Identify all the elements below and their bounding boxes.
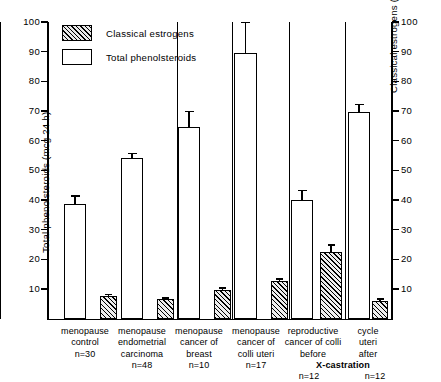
x-category-label-5: cycleuteriafter	[320, 326, 416, 360]
y-tick-left-30	[41, 229, 48, 230]
bar-classical-estrogens-3	[271, 281, 288, 319]
x-castration-text: X-castration	[316, 360, 370, 370]
y-tick-right-20	[392, 259, 399, 260]
x-category-line: uteri	[320, 337, 416, 348]
error-bar-cap-0	[71, 195, 80, 196]
y-ticklabel-right-10: 10	[401, 284, 427, 294]
y-ticklabel-right-40: 40	[401, 195, 427, 205]
y-ticklabel-right-30: 30	[401, 225, 427, 235]
y-ticklabel-left-70: 70	[14, 106, 40, 116]
sample-size-label-3: n=17	[226, 360, 286, 371]
y-ticklabel-right-50: 50	[401, 165, 427, 175]
y-tick-right-10	[392, 288, 399, 289]
y-ticklabel-left-30: 30	[14, 225, 40, 235]
y-tick-left-60	[41, 140, 48, 141]
bar-classical-estrogens-2	[214, 290, 231, 319]
y-ticklabel-left-40: 40	[14, 195, 40, 205]
y-tick-left-20	[41, 259, 48, 260]
error-bar-cap-2	[219, 287, 226, 288]
sample-size-label-1: n=48	[112, 360, 172, 371]
bar-total-phenolsteroids-0	[64, 204, 86, 319]
y-tick-left-50	[41, 170, 48, 171]
y-tick-right-100	[392, 21, 399, 22]
bar-total-phenolsteroids-1	[121, 158, 143, 319]
y-tick-left-70	[41, 110, 48, 111]
x-category-line: cycle	[320, 326, 416, 337]
y-ticklabel-right-70: 70	[401, 106, 427, 116]
y-ticklabel-right-60: 60	[401, 136, 427, 146]
y-ticklabel-right-20: 20	[401, 254, 427, 264]
error-bar-cap-2	[185, 111, 194, 112]
y-ticklabel-left-90: 90	[14, 47, 40, 57]
y-axis-left-title: Total phenolsteroids (mcg 24 h)	[40, 112, 51, 253]
y-tick-right-30	[392, 229, 399, 230]
error-bar-cap-3	[276, 278, 283, 279]
error-bar-cap-1	[162, 297, 169, 298]
y-ticklabel-left-100: 100	[14, 17, 40, 27]
y-axis-right-title: Classical estrogens (mcg 24 h)	[388, 0, 399, 93]
bar-classical-estrogens-1	[157, 299, 174, 319]
y-tick-right-60	[392, 140, 399, 141]
bar-total-phenolsteroids-4	[291, 200, 313, 319]
y-ticklabel-right-90: 90	[401, 47, 427, 57]
sample-size-label-5: n=12	[345, 371, 405, 382]
y-ticklabel-left-10: 10	[14, 284, 40, 294]
error-bar-cap-4	[298, 190, 307, 191]
bar-total-phenolsteroids-5	[348, 112, 370, 319]
error-bar-cap-1	[128, 153, 137, 154]
error-bar-cap-5	[355, 104, 364, 105]
y-tick-right-80	[392, 81, 399, 82]
y-tick-right-50	[392, 170, 399, 171]
y-ticklabel-right-100: 100	[401, 17, 427, 27]
bar-total-phenolsteroids-3	[234, 53, 257, 319]
legend-label: Classical estrogens	[106, 28, 194, 39]
group-separator-4	[345, 22, 346, 319]
open-box-icon	[62, 49, 92, 65]
y-tick-right-90	[392, 51, 399, 52]
error-bar-line-3	[245, 22, 246, 53]
y-tick-left-80	[41, 81, 48, 82]
sample-size-label-0: n=30	[55, 349, 115, 360]
error-bar-cap-5	[377, 298, 384, 299]
bar-classical-estrogens-5	[372, 301, 388, 319]
group-separator-0	[0, 22, 1, 319]
y-ticklabel-left-20: 20	[14, 254, 40, 264]
bar-classical-estrogens-4	[320, 252, 342, 319]
y-tick-left-40	[41, 199, 48, 200]
y-ticklabel-left-80: 80	[14, 76, 40, 86]
error-bar-cap-0	[105, 294, 112, 295]
hatched-box-icon	[62, 25, 92, 41]
error-bar-line-2	[188, 111, 189, 127]
y-ticklabel-left-50: 50	[14, 165, 40, 175]
error-bar-line-5	[358, 104, 359, 113]
y-ticklabel-right-80: 80	[401, 76, 427, 86]
sample-size-label-4: n=12	[279, 371, 339, 382]
x-castration-annotation: X-castration	[298, 360, 388, 370]
y-tick-left-10	[41, 288, 48, 289]
error-bar-line-0	[74, 195, 75, 204]
y-tick-right-40	[392, 199, 399, 200]
y-ticklabel-left-60: 60	[14, 136, 40, 146]
error-bar-cap-3	[241, 22, 250, 23]
y-tick-left-90	[41, 51, 48, 52]
y-tick-right-70	[392, 110, 399, 111]
bar-total-phenolsteroids-2	[178, 127, 200, 319]
error-bar-line-4	[301, 190, 302, 200]
x-category-line: after	[320, 349, 416, 360]
error-bar-cap-4	[328, 244, 335, 245]
y-tick-left-100	[41, 21, 48, 22]
legend-label: Total phenolsteroids	[106, 52, 196, 63]
bar-classical-estrogens-0	[100, 296, 117, 319]
sample-size-label-2: n=10	[169, 360, 229, 371]
